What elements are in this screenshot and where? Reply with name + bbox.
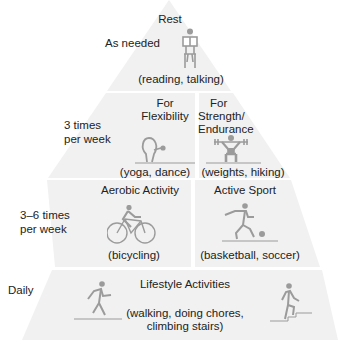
examples-line: climbing stairs) xyxy=(120,320,250,333)
yoga-stretch-icon xyxy=(135,136,195,166)
stair-climber-icon xyxy=(268,283,314,325)
flexibility-title: For Flexibility xyxy=(135,97,195,123)
frequency-3-times: 3 times per week xyxy=(64,118,111,146)
sport-title: Active Sport xyxy=(210,184,280,197)
weightlifter-icon xyxy=(206,134,266,166)
title-line: Flexibility xyxy=(135,110,195,123)
bicycle-rider-icon xyxy=(107,205,157,245)
person-reading-seated-icon xyxy=(180,28,200,70)
walking-person-icon xyxy=(74,281,124,323)
frequency-line: per week xyxy=(64,132,111,146)
frequency-as-needed: As needed xyxy=(105,36,160,50)
aerobic-examples: (bicycling) xyxy=(104,249,164,262)
title-line: Strength/ xyxy=(198,110,258,123)
soccer-player-icon xyxy=(222,203,278,245)
aerobic-title: Aerobic Activity xyxy=(100,184,180,197)
lifestyle-examples: (walking, doing chores, climbing stairs) xyxy=(120,307,250,333)
frequency-3-6-times: 3–6 times per week xyxy=(20,208,70,236)
strength-examples: (weights, hiking) xyxy=(196,166,290,179)
flexibility-examples: (yoga, dance) xyxy=(114,166,196,179)
lifestyle-title: Lifestyle Activities xyxy=(130,278,240,291)
frequency-line: per week xyxy=(20,222,70,236)
frequency-daily: Daily xyxy=(8,283,34,297)
title-line: For xyxy=(135,97,195,110)
rest-title: Rest xyxy=(150,13,190,26)
sport-examples: (basketball, soccer) xyxy=(200,249,300,262)
strength-title: For Strength/ Endurance xyxy=(198,97,258,136)
frequency-line: 3–6 times xyxy=(20,208,70,222)
title-line: For xyxy=(198,97,258,110)
rest-examples: (reading, talking) xyxy=(122,73,240,86)
examples-line: (walking, doing chores, xyxy=(120,307,250,320)
frequency-line: 3 times xyxy=(64,118,111,132)
